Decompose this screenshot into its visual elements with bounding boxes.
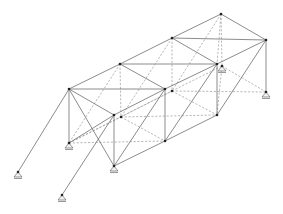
member-I1-B3 [121, 117, 165, 141]
member-I2-B5 [172, 91, 266, 92]
member-M1-S2 [62, 115, 114, 195]
member-I3-B4 [217, 66, 222, 115]
member-F1-B2 [114, 89, 165, 166]
member-M1-F1 [114, 89, 165, 115]
member-I2-I3 [172, 66, 222, 91]
nodes [17, 13, 268, 197]
node-T3 [171, 37, 174, 40]
member-F3-B4 [217, 40, 266, 115]
member-F2-B3 [165, 64, 217, 141]
truss-diagram [0, 0, 283, 214]
member-T1-T2 [69, 64, 120, 89]
node-M1 [113, 114, 116, 117]
node-B5 [265, 91, 268, 94]
member-B3-B4 [165, 115, 217, 141]
node-I1 [120, 116, 123, 119]
member-B2-B3 [114, 141, 165, 166]
member-M1-B1 [69, 115, 114, 143]
member-T4-I3 [221, 14, 222, 66]
hidden-members [69, 14, 266, 143]
member-T3-T4 [172, 14, 221, 38]
node-B3 [164, 140, 167, 143]
member-F3-F2 [217, 40, 266, 64]
member-T1-M1 [69, 89, 114, 115]
node-S2 [61, 194, 64, 197]
truss-canvas [0, 0, 283, 214]
member-T2-T3 [120, 38, 172, 64]
node-B2 [113, 165, 116, 168]
node-I2 [171, 90, 174, 93]
node-F2 [216, 63, 219, 66]
member-F2-F1 [165, 64, 217, 89]
member-I3-B5 [222, 66, 266, 92]
node-T2 [119, 63, 122, 66]
node-F3 [265, 39, 268, 42]
visible-members [18, 14, 266, 195]
member-I2-B4 [172, 91, 217, 115]
member-T4-F3 [221, 14, 266, 40]
node-B4 [216, 114, 219, 117]
member-T3-I1 [121, 38, 172, 117]
member-T1-B2 [69, 89, 114, 166]
member-T2-I1 [120, 64, 121, 117]
node-B1 [68, 142, 71, 145]
node-T1 [68, 88, 71, 91]
member-T1-S1 [18, 89, 69, 172]
member-I1-B4 [121, 115, 217, 117]
node-F1 [164, 88, 167, 91]
node-I3 [221, 65, 224, 68]
node-S1 [17, 171, 20, 174]
supports [14, 66, 270, 202]
member-T2-F1 [120, 64, 165, 89]
member-T3-F2 [172, 38, 217, 64]
node-T4 [220, 13, 223, 16]
member-B1-B3 [69, 141, 165, 143]
